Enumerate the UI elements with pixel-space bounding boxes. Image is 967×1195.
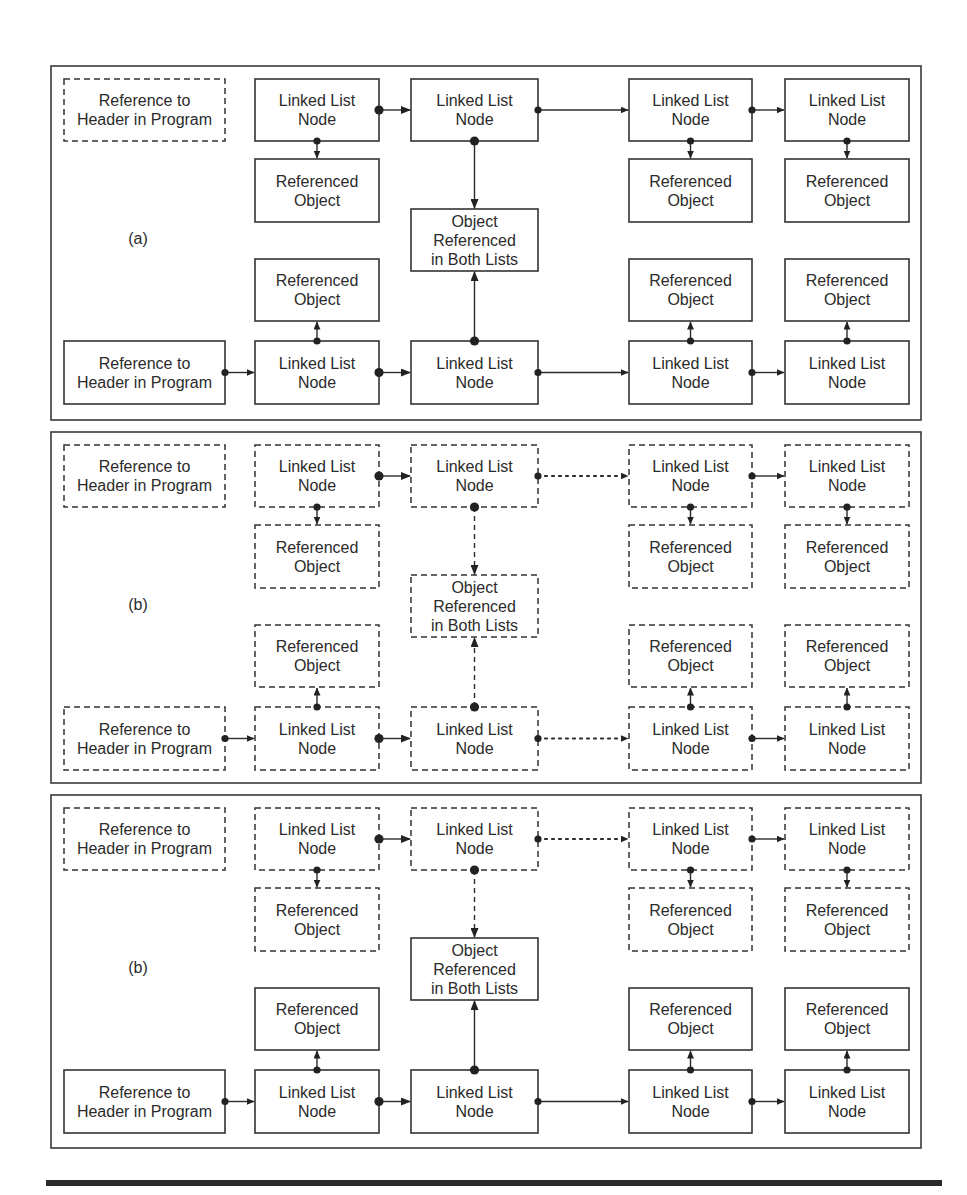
pointer-dot-icon <box>313 866 320 873</box>
pointer-dot-icon <box>687 703 694 710</box>
pointer-dot-icon <box>374 105 383 114</box>
top-referenced-object-outline <box>629 525 752 588</box>
bottom-referenced-object-label-line: Referenced <box>649 1001 732 1018</box>
top-referenced-object: ReferencedObject <box>785 159 909 222</box>
bottom-list-node-label-line: Linked List <box>652 721 729 738</box>
top-list-node: Linked ListNode <box>411 79 538 141</box>
bottom-referenced-object-outline <box>785 625 909 687</box>
bottom-list-node: Linked ListNode <box>411 1070 538 1133</box>
header-reference-top: Reference toHeader in Program <box>64 808 225 870</box>
top-list-node-label-line: Node <box>298 840 336 857</box>
top-list-node-outline <box>411 79 538 141</box>
pointer-dot-icon <box>687 866 694 873</box>
bottom-list-node-label-line: Linked List <box>279 355 356 372</box>
pointer-dot-icon <box>534 369 541 376</box>
top-list-node: Linked ListNode <box>255 79 379 141</box>
bottom-referenced-object-label-line: Object <box>824 1020 871 1037</box>
bottom-referenced-object-outline <box>629 259 752 321</box>
panels-layer: (a)Reference toHeader in ProgramReferenc… <box>51 66 921 1148</box>
bottom-list-node-label-line: Linked List <box>652 1084 729 1101</box>
top-object-pointer <box>687 137 694 158</box>
bottom-referenced-object-label-line: Referenced <box>276 638 359 655</box>
linked-list-reference-diagram: (a)Reference toHeader in ProgramReferenc… <box>0 0 967 1195</box>
top-list-node: Linked ListNode <box>411 445 538 507</box>
top-list-node-label-line: Node <box>298 111 336 128</box>
bottom-list-node-outline <box>255 341 379 404</box>
pointer-dot-icon <box>470 865 479 874</box>
bottom-object-pointer <box>470 638 479 712</box>
bottom-list-node-label-line: Node <box>671 374 709 391</box>
top-referenced-object-label-line: Referenced <box>806 902 889 919</box>
top-list-node-label-line: Node <box>671 111 709 128</box>
bottom-referenced-object-outline <box>785 988 909 1050</box>
pointer-dot-icon <box>313 1066 320 1073</box>
bottom-referenced-object-label-line: Object <box>294 1020 341 1037</box>
bottom-referenced-object: ReferencedObject <box>255 988 379 1050</box>
bottom-list-node-outline <box>629 707 752 770</box>
top-list-node-outline <box>785 445 909 507</box>
top-object-pointer <box>687 503 694 524</box>
shared-object-label-line: in Both Lists <box>431 251 518 268</box>
top-referenced-object-label-line: Referenced <box>276 539 359 556</box>
top-referenced-object-outline <box>785 888 909 951</box>
bottom-referenced-object: ReferencedObject <box>785 625 909 687</box>
shared-object-label-line: Object <box>451 213 498 230</box>
pointer-dot-icon <box>374 471 383 480</box>
pointer-dot-icon <box>470 336 479 345</box>
top-list-node-label-line: Linked List <box>436 458 513 475</box>
top-list-node-label-line: Node <box>828 111 866 128</box>
top-list-node-label-line: Linked List <box>652 458 729 475</box>
top-next-link <box>748 835 784 842</box>
header-reference-top-label-line: Reference to <box>99 92 191 109</box>
top-list-node-outline <box>255 808 379 870</box>
bottom-referenced-object-label-line: Referenced <box>649 638 732 655</box>
top-object-pointer <box>313 503 320 524</box>
header-reference-bottom-label-line: Reference to <box>99 721 191 738</box>
pointer-dot-icon <box>534 835 541 842</box>
top-list-node-outline <box>785 79 909 141</box>
top-list-node-label-line: Linked List <box>279 821 356 838</box>
shared-object-label-line: Object <box>451 579 498 596</box>
bottom-list-node: Linked ListNode <box>411 341 538 404</box>
bottom-list-node-outline <box>629 341 752 404</box>
bottom-object-pointer <box>687 322 694 345</box>
top-referenced-object-label-line: Object <box>294 192 341 209</box>
top-next-link <box>534 835 628 842</box>
bottom-next-link <box>374 1097 410 1106</box>
shared-object-label-line: Referenced <box>433 232 516 249</box>
top-referenced-object-outline <box>255 525 379 588</box>
pointer-dot-icon <box>687 137 694 144</box>
header-reference-top-outline <box>64 79 225 141</box>
top-list-node-label-line: Node <box>671 840 709 857</box>
bottom-list-node-label-line: Linked List <box>436 1084 513 1101</box>
top-list-node: Linked ListNode <box>629 808 752 870</box>
top-list-node-label-line: Node <box>455 111 493 128</box>
panel-label: (a) <box>128 230 148 247</box>
top-referenced-object-label-line: Object <box>824 558 871 575</box>
top-list-node: Linked ListNode <box>785 79 909 141</box>
bottom-list-node-label-line: Node <box>671 1103 709 1120</box>
shared-object-label-line: in Both Lists <box>431 617 518 634</box>
header-reference-bottom-label-line: Reference to <box>99 355 191 372</box>
pointer-dot-icon <box>374 834 383 843</box>
bottom-next-link <box>374 368 410 377</box>
header-reference-top-outline <box>64 445 225 507</box>
bottom-referenced-object-label-line: Object <box>667 1020 714 1037</box>
bottom-next-link <box>534 369 628 376</box>
top-referenced-object-label-line: Referenced <box>649 902 732 919</box>
header-reference-top-label-line: Header in Program <box>77 477 212 494</box>
pointer-dot-icon <box>687 1066 694 1073</box>
shared-object-label-line: in Both Lists <box>431 980 518 997</box>
panel-c: (b)Reference toHeader in ProgramReferenc… <box>51 795 921 1148</box>
header-reference-top-label-line: Header in Program <box>77 840 212 857</box>
top-referenced-object: ReferencedObject <box>255 159 379 222</box>
header-reference-bottom: Reference toHeader in Program <box>64 707 225 770</box>
top-referenced-object: ReferencedObject <box>785 888 909 951</box>
header-reference-top-label-line: Reference to <box>99 458 191 475</box>
top-referenced-object: ReferencedObject <box>629 525 752 588</box>
top-list-node-label-line: Linked List <box>809 821 886 838</box>
top-list-node-label-line: Linked List <box>279 92 356 109</box>
top-referenced-object: ReferencedObject <box>255 525 379 588</box>
header-reference-top-outline <box>64 808 225 870</box>
bottom-list-node: Linked ListNode <box>785 1070 909 1133</box>
